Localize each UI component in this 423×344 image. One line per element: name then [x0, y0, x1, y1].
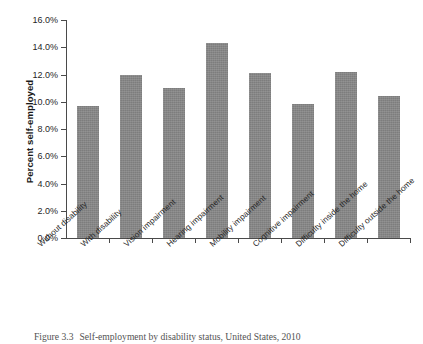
figure-container: Percent self-employed 0.0%2.0%4.0%6.0%8.…	[0, 0, 423, 344]
y-tick-label-1: 2.0%	[2, 206, 58, 216]
y-tick-label-6: 12.0%	[2, 70, 58, 80]
y-tick-5	[61, 102, 66, 103]
y-tick-label-4: 8.0%	[2, 124, 58, 134]
y-tick-label-5: 10.0%	[2, 97, 58, 107]
y-tick-6	[61, 75, 66, 76]
figure-caption-text: Self-employment by disability status, Un…	[79, 331, 300, 342]
y-tick-4	[61, 129, 66, 130]
figure-number: Figure 3.3	[34, 331, 73, 342]
y-tick-2	[61, 184, 66, 185]
y-tick-0	[61, 238, 66, 239]
y-tick-label-8: 16.0%	[2, 15, 58, 25]
y-tick-8	[61, 20, 66, 21]
y-tick-label-2: 4.0%	[2, 179, 58, 189]
bar	[292, 104, 314, 238]
y-tick-label-7: 14.0%	[2, 42, 58, 52]
y-tick-3	[61, 156, 66, 157]
figure-caption: Figure 3.3Self-employment by disability …	[34, 331, 414, 342]
y-axis-line	[66, 20, 67, 239]
bar	[378, 96, 400, 238]
y-tick-1	[61, 211, 66, 212]
y-tick-7	[61, 47, 66, 48]
bar	[163, 88, 185, 238]
x-axis-labels: Without disabilityWith disabilityVision …	[0, 240, 423, 322]
y-tick-label-3: 6.0%	[2, 151, 58, 161]
plot-area: 0.0%2.0%4.0%6.0%8.0%10.0%12.0%14.0%16.0%	[66, 20, 410, 238]
bar	[77, 106, 99, 238]
